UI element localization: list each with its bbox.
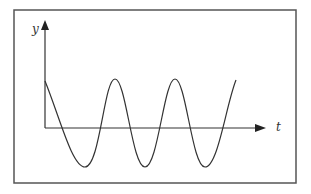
y-axis-arrow-icon [41, 20, 49, 30]
chart-frame [14, 10, 296, 183]
y-axis-label: y [32, 22, 39, 36]
x-axis-arrow-icon [255, 124, 266, 132]
sine-curve [45, 79, 236, 167]
x-axis-label: t [276, 120, 281, 134]
chart-canvas [0, 0, 311, 194]
